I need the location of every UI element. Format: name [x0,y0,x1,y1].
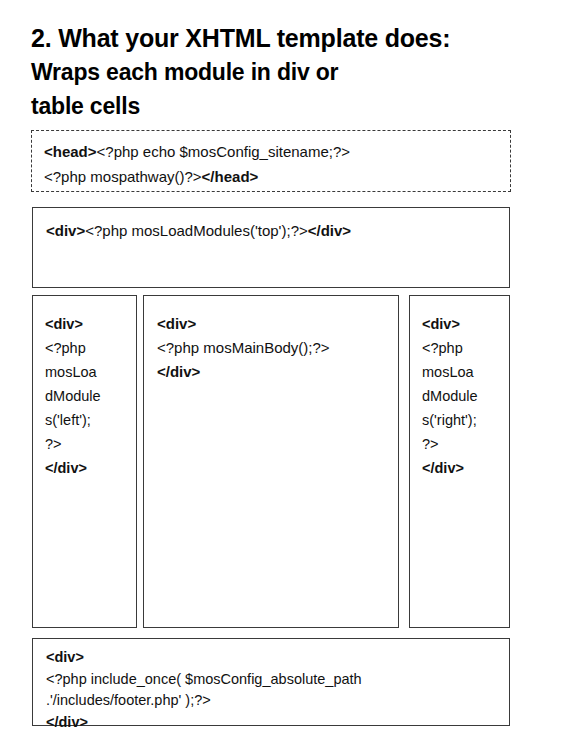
code-box-center: <div><?php mosMainBody();?></div> [143,295,399,628]
code-text-right: <div><?phpmosLoadModules('right');?></di… [422,312,503,480]
title-line-2: Wraps each module in div or [31,55,531,89]
code-box-footer: <div><?php include_once( $mosConfig_abso… [32,638,510,726]
code-text-footer: <div><?php include_once( $mosConfig_abso… [46,647,499,733]
page-title: 2. What your XHTML template does: Wraps … [31,21,531,123]
slide-content: 2. What your XHTML template does: Wraps … [11,9,561,745]
title-line-1: 2. What your XHTML template does: [31,21,531,55]
code-text-center: <div><?php mosMainBody();?></div> [157,312,390,384]
code-text-left: <div><?phpmosLoadModules('left');?></div… [45,312,130,480]
code-box-right: <div><?phpmosLoadModules('right');?></di… [409,295,510,628]
code-box-head: <head><?php echo $mosConfig_sitename;?><… [31,130,511,192]
title-line-3: table cells [31,89,531,123]
slide-frame: 2. What your XHTML template does: Wraps … [11,9,561,745]
code-box-left: <div><?phpmosLoadModules('left');?></div… [32,295,137,628]
code-box-top: <div><?php mosLoadModules('top');?></div… [32,207,510,288]
code-text-top: <div><?php mosLoadModules('top');?></div… [46,220,499,241]
code-text-head: <head><?php echo $mosConfig_sitename;?><… [44,139,500,189]
